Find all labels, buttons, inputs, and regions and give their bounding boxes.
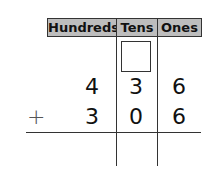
sum-line [26, 132, 201, 133]
addend2-tens: 0 [121, 105, 151, 129]
plus-sign: + [27, 105, 45, 129]
addend1-hundreds: 4 [77, 75, 107, 99]
addend1-ones: 6 [164, 75, 194, 99]
column-divider-tens-ones [157, 37, 158, 166]
regroup-box[interactable] [121, 41, 151, 72]
addend2-hundreds: 3 [77, 105, 107, 129]
header-ones: Ones [157, 18, 202, 37]
header-hundreds: Hundreds [47, 18, 117, 37]
addend2-ones: 6 [164, 105, 194, 129]
column-divider-hundreds-tens [116, 37, 117, 166]
addend1-tens: 3 [121, 75, 151, 99]
header-tens: Tens [116, 18, 158, 37]
